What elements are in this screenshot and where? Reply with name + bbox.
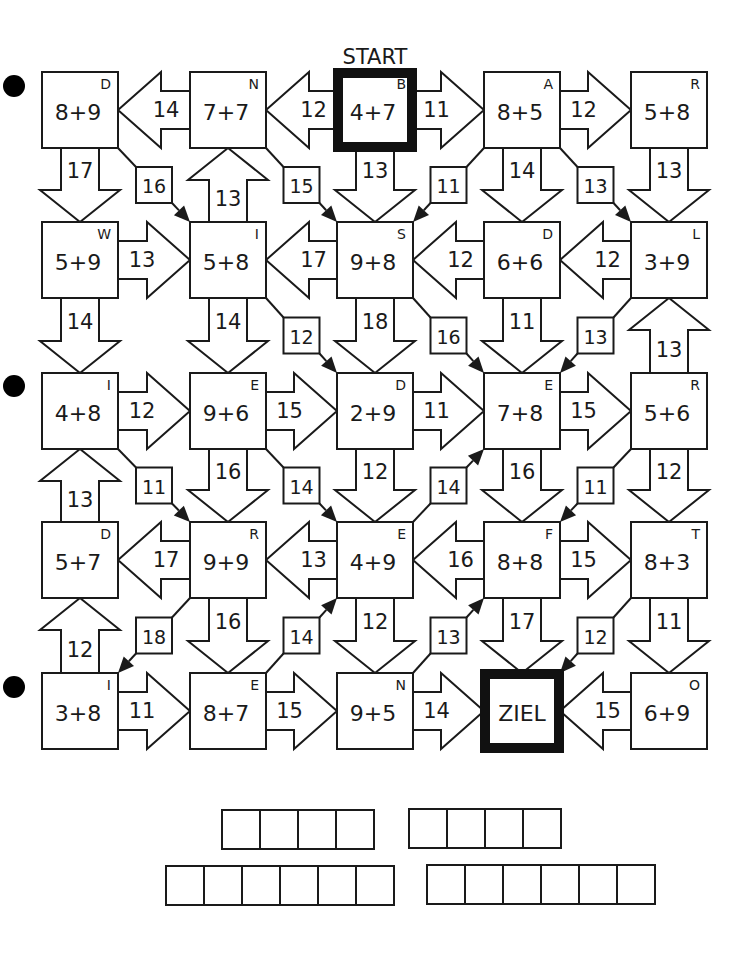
answer-letter-box[interactable] (408, 808, 448, 849)
arrow-value: 17 (67, 159, 94, 183)
maze-cell[interactable]: 3+8I (42, 673, 118, 749)
arrow-value: 15 (570, 399, 597, 423)
arrow-right: 13 (118, 222, 190, 298)
diagonal-value: 13 (436, 626, 460, 648)
arrow-value: 11 (129, 699, 156, 723)
maze-cell[interactable]: 6+9O (631, 673, 707, 749)
maze-cell[interactable]: 4+8I (42, 373, 118, 449)
answer-letter-box[interactable] (426, 864, 466, 905)
arrow-value: 18 (362, 310, 389, 334)
arrow-right: 11 (413, 373, 484, 449)
arrow-left: 14 (118, 72, 190, 148)
arrow-value: 13 (129, 248, 156, 272)
cell-letter: E (544, 377, 553, 393)
answer-letter-box[interactable] (259, 809, 299, 850)
arrow-left: 12 (413, 222, 484, 298)
diagonal-value: 14 (289, 626, 313, 648)
cell-expression: 8+3 (644, 550, 690, 575)
goal-cell[interactable]: ZIEL (485, 674, 559, 748)
maze-cell[interactable]: 5+9W (42, 222, 118, 298)
cell-expression: 5+9 (55, 250, 101, 275)
answer-letter-box[interactable] (446, 808, 486, 849)
cell-letter: O (689, 677, 700, 693)
maze-cell[interactable]: 5+6R (631, 373, 707, 449)
maze-cell[interactable]: 8+3T (631, 522, 707, 598)
maze-cell[interactable]: 8+7E (190, 673, 266, 749)
arrow-value: 12 (362, 610, 389, 634)
arrow-right: 12 (118, 373, 190, 449)
answer-letter-box[interactable] (540, 864, 580, 905)
answer-letter-box[interactable] (616, 864, 656, 905)
answer-word-2 (408, 808, 562, 849)
maze-cell[interactable]: 7+7N (190, 72, 266, 148)
maze-cell[interactable]: 5+8R (631, 72, 707, 148)
answer-letter-box[interactable] (241, 865, 281, 906)
answer-letter-box[interactable] (165, 865, 205, 906)
answer-letter-box[interactable] (297, 809, 337, 850)
answer-letter-box[interactable] (578, 864, 618, 905)
maze-cell[interactable]: 5+8I (190, 222, 266, 298)
maze-cell[interactable]: 9+5N (337, 673, 413, 749)
answer-letter-box[interactable] (502, 864, 542, 905)
maze-cell[interactable]: 6+6D (484, 222, 560, 298)
arrow-value: 17 (153, 548, 180, 572)
arrow-value: 11 (509, 310, 536, 334)
arrow-down: 16 (188, 598, 268, 673)
cell-expression: 5+6 (644, 401, 690, 426)
cell-expression: 5+8 (203, 250, 249, 275)
cell-expression: 4+8 (55, 401, 101, 426)
maze-cell[interactable]: 8+8F (484, 522, 560, 598)
answer-letter-box[interactable] (522, 808, 562, 849)
cell-letter: B (396, 76, 406, 92)
arrow-value: 14 (423, 699, 450, 723)
arrow-down: 16 (482, 449, 562, 522)
answer-letter-box[interactable] (335, 809, 375, 850)
answer-letter-box[interactable] (203, 865, 243, 906)
cell-letter: R (249, 526, 259, 542)
maze-cell[interactable]: 2+9D (337, 373, 413, 449)
maze-cell[interactable]: 7+8E (484, 373, 560, 449)
diagonal-arrow-sw: 11 (560, 449, 631, 522)
arrow-value: 13 (67, 488, 94, 512)
answer-letter-box[interactable] (484, 808, 524, 849)
arrow-value: 15 (594, 699, 621, 723)
diagonal-arrow-ne: 14 (266, 598, 337, 673)
arrow-value: 15 (570, 548, 597, 572)
arrow-value: 16 (215, 610, 242, 634)
answer-letter-box[interactable] (317, 865, 357, 906)
maze-cell[interactable]: 9+8S (337, 222, 413, 298)
arrow-value: 13 (215, 187, 242, 211)
diagonal-value: 11 (142, 476, 166, 498)
answer-letter-box[interactable] (464, 864, 504, 905)
arrow-value: 13 (362, 159, 389, 183)
maze-cell[interactable]: 3+9L (631, 222, 707, 298)
maze-cell[interactable]: 9+6E (190, 373, 266, 449)
answer-letter-box[interactable] (355, 865, 395, 906)
maze-cell[interactable]: 4+9E (337, 522, 413, 598)
arrow-value: 11 (656, 610, 683, 634)
answer-letter-box[interactable] (221, 809, 261, 850)
maze-cell[interactable]: 8+5A (484, 72, 560, 148)
maze-cell[interactable]: 9+9R (190, 522, 266, 598)
arrow-right: 11 (413, 72, 484, 148)
arrow-value: 12 (570, 98, 597, 122)
arrow-right: 15 (266, 373, 337, 449)
diagonal-arrow-ne: 13 (413, 598, 484, 673)
diagonal-arrow-se: 11 (118, 449, 190, 522)
start-cell[interactable]: 4+7B (338, 73, 412, 147)
arrow-value: 12 (129, 399, 156, 423)
maze-cell[interactable]: 5+7D (42, 522, 118, 598)
cell-letter: A (543, 76, 553, 92)
diagonal-arrow-sw: 13 (560, 298, 631, 373)
arrow-left: 17 (266, 222, 337, 298)
diagonal-value: 12 (289, 326, 313, 348)
maze-cell[interactable]: 8+9D (42, 72, 118, 148)
arrow-left: 12 (560, 222, 631, 298)
arrow-down: 17 (40, 148, 120, 222)
arrow-up: 12 (40, 598, 120, 673)
cell-letter: N (249, 76, 259, 92)
arrow-down: 14 (188, 298, 268, 373)
answer-letter-box[interactable] (279, 865, 319, 906)
cell-expression: 9+6 (203, 401, 249, 426)
arrow-right: 15 (266, 673, 337, 749)
